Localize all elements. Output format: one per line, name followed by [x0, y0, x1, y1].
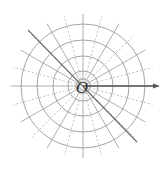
arrow-head-icon [153, 84, 160, 89]
polar-grid-diagram: O [0, 0, 165, 169]
origin-label: O [76, 79, 88, 97]
